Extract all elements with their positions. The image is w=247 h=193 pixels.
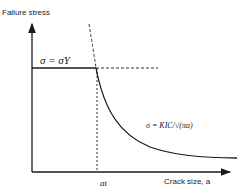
- x-axis-label: Crack size, a: [164, 177, 210, 186]
- fracture-curve-dashed: [89, 24, 96, 68]
- y-axis-label: Failure stress: [2, 8, 50, 17]
- transition-label: at: [100, 178, 107, 188]
- fracture-label: σ = KIC/√(πa): [146, 121, 193, 130]
- diagram-canvas: [0, 0, 247, 193]
- fracture-curve: [96, 68, 237, 158]
- yield-label: σ = σY: [40, 54, 70, 66]
